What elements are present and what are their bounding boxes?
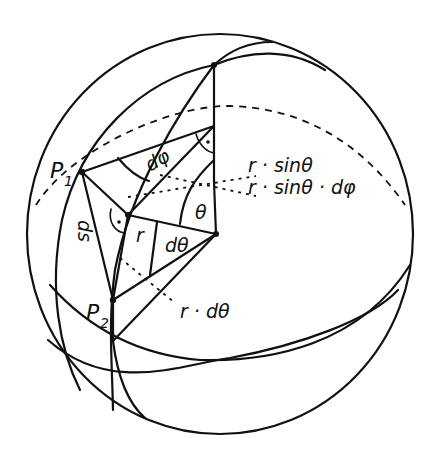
label-p1: P xyxy=(50,158,64,183)
sphere-diagram: P 1 P 2 ds r θ dθ dφ r · sinθ r · sinθ ·… xyxy=(0,0,439,460)
label-dtheta: dθ xyxy=(165,234,189,256)
dtheta-arrow xyxy=(150,222,157,275)
point-p2 xyxy=(110,297,116,303)
label-r-sin-theta: r · sinθ xyxy=(248,154,313,176)
right-angle-dot-top xyxy=(206,140,210,144)
right-angle-dot-r xyxy=(117,220,121,224)
label-theta: θ xyxy=(195,201,207,223)
point-p1 xyxy=(79,169,85,175)
label-p1-sub: 1 xyxy=(64,173,73,189)
label-p2-sub: 2 xyxy=(100,315,109,331)
label-r-sin-theta-dphi: r · sinθ · dφ xyxy=(248,176,356,198)
label-r-dtheta: r · dθ xyxy=(180,300,230,322)
point-r xyxy=(125,212,131,218)
label-ds: ds xyxy=(74,220,96,242)
point-center xyxy=(213,231,219,237)
point-north-pole xyxy=(211,62,217,68)
meridian-front-lower xyxy=(113,341,145,418)
label-p2: P xyxy=(86,300,100,325)
p1-to-r xyxy=(82,172,128,215)
meridian-2 xyxy=(111,65,214,410)
dash-rsindphi xyxy=(160,175,256,196)
axis-to-center xyxy=(214,182,216,234)
label-r: r xyxy=(136,224,145,246)
lower-ring xyxy=(50,265,410,360)
